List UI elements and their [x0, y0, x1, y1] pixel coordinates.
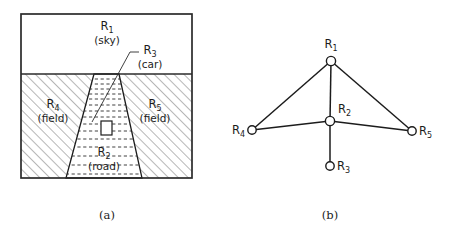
graph-edges [252, 61, 412, 166]
node-label-R5: R5 [419, 124, 432, 140]
edge-R1-R5 [331, 61, 412, 131]
caption-a: (a) [99, 208, 115, 222]
node-R1[interactable] [326, 56, 335, 65]
figure-svg: R1 (sky) R3 (car) R4 (field) R5 (field) … [0, 0, 452, 240]
node-R3[interactable] [326, 162, 334, 170]
label-R2-name: (road) [88, 160, 120, 172]
node-label-R3: R3 [337, 159, 350, 175]
label-R5-name: (field) [140, 112, 171, 124]
edge-R4-R2 [252, 121, 330, 130]
label-R1-name: (sky) [94, 34, 120, 46]
edge-R2-R5 [330, 121, 412, 131]
label-R3-name: (car) [138, 58, 163, 70]
node-label-R2: R2 [338, 102, 351, 118]
node-label-R4: R4 [232, 123, 245, 139]
edge-R1-R4 [252, 61, 331, 130]
node-label-R1: R1 [324, 37, 337, 53]
node-R2[interactable] [325, 116, 334, 125]
edge-R1-R2 [330, 61, 331, 121]
caption-b: (b) [322, 208, 338, 222]
figure-root: R1 (sky) R3 (car) R4 (field) R5 (field) … [0, 0, 452, 240]
node-R5[interactable] [408, 127, 416, 135]
panel-b: R1 R2 R3 R4 R5 [232, 37, 432, 175]
panel-a: R1 (sky) R3 (car) R4 (field) R5 (field) … [21, 14, 192, 178]
node-R4[interactable] [248, 126, 256, 134]
label-R4-name: (field) [38, 112, 69, 124]
car-symbol [101, 121, 112, 135]
